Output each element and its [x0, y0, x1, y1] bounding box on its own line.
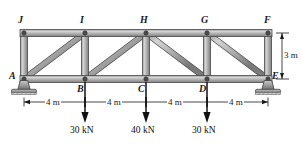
truss-diagram-figure: J I H G F A B C D E 4 m 4 m 4 m 4 m 3 m …: [0, 0, 302, 144]
dim-arrow-right: [262, 100, 268, 104]
vdim-arrow-bottom: [280, 73, 284, 79]
joint-label-G: G: [201, 15, 208, 25]
load-label-C: 40 kN: [131, 126, 155, 136]
member-diagonal-H-D-fill: [146, 33, 207, 79]
joint-pin-D: [205, 77, 209, 81]
joint-pin-B: [83, 77, 87, 81]
dim-label-span-C-D: 4 m: [167, 98, 183, 107]
vdim-arrow-top: [280, 33, 284, 39]
joint-label-J: J: [18, 15, 23, 25]
joint-label-A: A: [9, 71, 16, 81]
dim-label-span-D-E: 4 m: [228, 98, 244, 107]
joint-pin-H: [144, 31, 148, 35]
load-arrows: [81, 82, 210, 123]
joint-label-B: B: [77, 84, 84, 94]
dim-arrow-left: [24, 100, 30, 104]
member-vertical-C-H: [143, 31, 150, 81]
pin-support-A-ground-hatch: [12, 92, 37, 94]
pin-support-E-pedestal: [262, 81, 274, 90]
joint-label-C: C: [138, 84, 145, 94]
member-diagonal-B-H-fill: [85, 33, 146, 79]
member-diagonal-G-E-fill: [207, 33, 268, 79]
joint-label-D: D: [199, 84, 206, 94]
joint-label-H: H: [140, 15, 148, 25]
pin-support-A-pedestal: [18, 81, 30, 90]
load-label-D: 30 kN: [192, 126, 216, 136]
joint-pin-C: [144, 77, 148, 81]
dim-label-span-A-B: 4 m: [45, 98, 61, 107]
load-label-B: 30 kN: [70, 126, 94, 136]
member-diagonal-A-I-fill: [24, 33, 85, 79]
member-vertical-A-J: [21, 31, 28, 81]
joint-label-E: E: [272, 71, 279, 81]
dim-label-span-B-C: 4 m: [106, 98, 122, 107]
joint-pin-F: [266, 31, 270, 35]
joint-pin-G: [205, 31, 209, 35]
joint-label-I: I: [80, 15, 84, 25]
joint-pin-J: [22, 31, 26, 35]
pin-support-E-ground-hatch: [256, 92, 281, 94]
member-vertical-E-F: [265, 31, 272, 81]
joint-pin-I: [83, 31, 87, 35]
dim-label-height-E-F: 3 m: [284, 51, 298, 60]
member-vertical-B-I: [82, 31, 89, 81]
truss-drawing-canvas: [0, 0, 302, 144]
joint-label-F: F: [264, 15, 271, 25]
member-vertical-D-G: [204, 31, 211, 81]
